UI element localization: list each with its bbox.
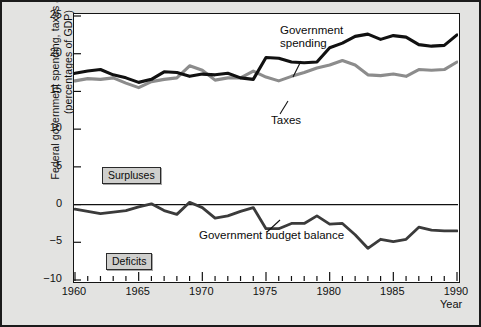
taxes-line	[75, 61, 457, 88]
y-tick-label: −10	[32, 272, 62, 284]
series-label-government-spending: Government spending	[280, 24, 343, 50]
surpluses-tag: Surpluses	[102, 167, 161, 184]
y-tick-label: 10	[32, 121, 62, 133]
y-tick-label: 15	[32, 83, 62, 95]
figure-panel: Federal government spending, taxes and b…	[0, 0, 481, 327]
y-tick-label: 0	[32, 197, 62, 209]
x-tick-label: 1970	[178, 285, 224, 297]
y-tick-label: −5	[32, 234, 62, 246]
series-label-taxes: Taxes	[271, 114, 301, 127]
spending-label-line1: Government	[280, 24, 343, 36]
taxes-leader-line	[280, 101, 288, 114]
spending-label-line2: spending	[280, 37, 327, 49]
plot-area: Government spending Taxes Government bud…	[73, 13, 460, 283]
x-tick-label: 1960	[51, 285, 97, 297]
y-tick-label: 5	[32, 159, 62, 171]
y-tick-label: 25	[32, 8, 62, 20]
x-tick-label: 1980	[306, 285, 352, 297]
y-tick-marks	[74, 16, 81, 280]
x-tick-label: 1975	[242, 285, 288, 297]
x-tick-label: 1965	[115, 285, 161, 297]
y-tick-label: 20	[32, 46, 62, 58]
x-tick-label: 1990	[433, 285, 479, 297]
x-tick-marks	[75, 272, 457, 281]
deficits-tag: Deficits	[106, 253, 152, 270]
x-tick-label: 1985	[369, 285, 415, 297]
series-label-budget-balance: Government budget balance	[199, 229, 344, 242]
x-axis-label: Year	[440, 298, 462, 310]
